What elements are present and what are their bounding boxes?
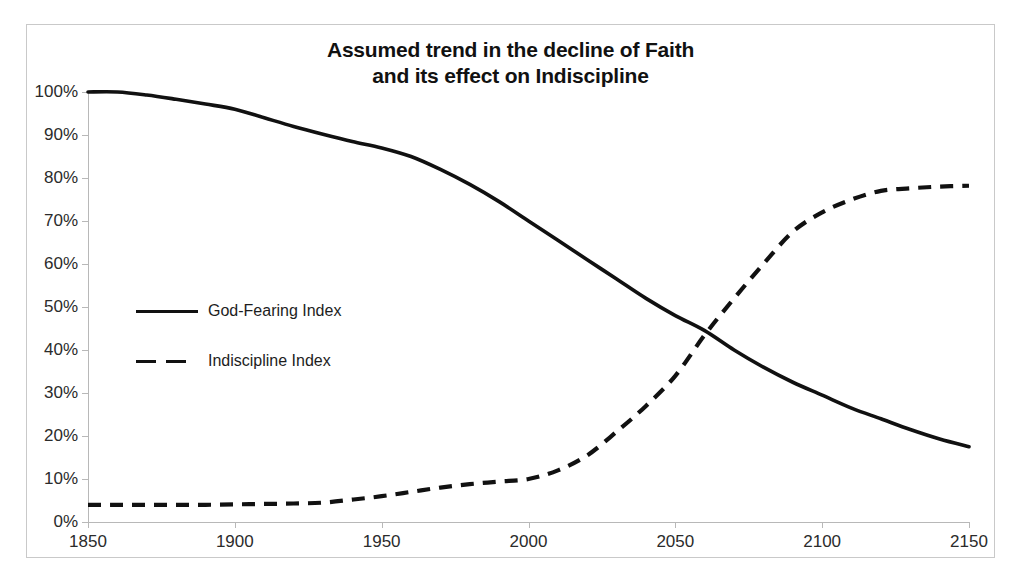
chart-title-line-1: Assumed trend in the decline of Faith: [27, 37, 994, 63]
chart-title: Assumed trend in the decline of Faith an…: [27, 37, 994, 89]
legend-entry-indiscipline-index: Indiscipline Index: [136, 349, 426, 373]
y-axis-label-60%: 60%: [44, 255, 78, 272]
x-axis-label-1900: 1900: [216, 532, 254, 552]
scan-artifact-strip: [0, 0, 1017, 14]
y-axis-label-30%: 30%: [44, 384, 78, 401]
y-axis-label-90%: 90%: [44, 126, 78, 143]
y-axis-label-0%: 0%: [53, 513, 78, 530]
chart-frame: Assumed trend in the decline of Faith an…: [26, 24, 995, 558]
x-tick-2050: [675, 522, 676, 528]
x-axis-label-1850: 1850: [69, 532, 107, 552]
legend-entry-god-fearing-index: God-Fearing Index: [136, 299, 426, 323]
x-axis-label-2000: 2000: [510, 532, 548, 552]
x-axis-labels: 1850190019502000205021002150: [88, 532, 969, 558]
x-axis-label-2050: 2050: [656, 532, 694, 552]
x-axis-label-2150: 2150: [950, 532, 988, 552]
y-axis-label-40%: 40%: [44, 341, 78, 358]
y-axis-label-50%: 50%: [44, 298, 78, 315]
series-god-fearing-index-line: [88, 92, 969, 447]
y-axis-label-80%: 80%: [44, 169, 78, 186]
x-tick-2150: [969, 522, 970, 528]
y-axis-label-70%: 70%: [44, 212, 78, 229]
y-axis-labels: 0%10%20%30%40%50%60%70%80%90%100%: [20, 92, 78, 522]
y-axis-label-100%: 100%: [35, 83, 78, 100]
x-axis-label-2100: 2100: [803, 532, 841, 552]
x-tick-1850: [88, 522, 89, 528]
x-tick-2000: [529, 522, 530, 528]
chart-title-line-2: and its effect on Indiscipline: [27, 63, 994, 89]
x-tick-1950: [382, 522, 383, 528]
x-tick-1900: [235, 522, 236, 528]
legend-swatch-solid-icon: [136, 305, 198, 317]
legend-swatch-dashed-icon: [136, 355, 198, 367]
chart-legend: God-Fearing Index Indiscipline Index: [136, 299, 426, 385]
y-axis-label-20%: 20%: [44, 427, 78, 444]
legend-label-indiscipline-index: Indiscipline Index: [208, 352, 331, 370]
x-tick-2100: [822, 522, 823, 528]
x-axis-label-1950: 1950: [363, 532, 401, 552]
y-axis-label-10%: 10%: [44, 470, 78, 487]
legend-label-god-fearing-index: God-Fearing Index: [208, 302, 341, 320]
